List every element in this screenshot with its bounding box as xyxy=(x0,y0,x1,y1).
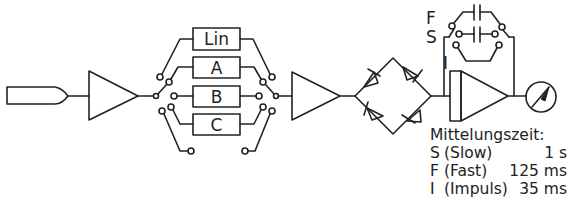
averaging-time-legend: Mittelungszeit: S (Slow) 1 s F (Fast) 12… xyxy=(430,126,567,198)
legend-value-slow: 1 s xyxy=(544,144,567,162)
switch-label-slow: S xyxy=(426,27,437,47)
sound-level-meter-diagram: Lin A B C xyxy=(0,0,573,210)
filter-output-switch xyxy=(240,39,292,154)
legend-key-slow: S xyxy=(430,144,440,162)
filter-b-label: B xyxy=(211,87,223,107)
preamplifier-icon xyxy=(89,71,154,120)
legend-name-slow: (Slow) xyxy=(444,144,492,162)
legend-heading: Mittelungszeit: xyxy=(430,126,545,144)
filter-c-label: C xyxy=(211,115,223,135)
amplifier-icon xyxy=(292,72,355,120)
filter-lin-label: Lin xyxy=(204,29,229,49)
meter-icon xyxy=(526,82,556,112)
legend-key-impulse: I xyxy=(430,180,435,198)
filter-a-label: A xyxy=(211,58,223,78)
legend-key-fast: F xyxy=(430,162,439,180)
switch-label-impulse: I xyxy=(443,53,448,73)
legend-value-impulse: 35 ms xyxy=(519,180,567,198)
switch-label-fast: F xyxy=(426,8,436,28)
filter-b: B xyxy=(193,86,240,107)
microphone-icon xyxy=(7,87,89,104)
bridge-rectifier-icon xyxy=(355,58,450,134)
filter-c: C xyxy=(193,114,240,135)
legend-value-fast: 125 ms xyxy=(509,162,567,180)
filter-lin: Lin xyxy=(193,28,240,50)
filter-a: A xyxy=(193,57,240,78)
time-constant-switch xyxy=(444,5,514,96)
filter-input-switch xyxy=(154,39,195,154)
legend-name-fast: (Fast) xyxy=(444,162,487,180)
diode-icon xyxy=(403,67,422,82)
diode-icon xyxy=(364,102,383,120)
legend-name-impulse: (Impuls) xyxy=(444,180,508,198)
